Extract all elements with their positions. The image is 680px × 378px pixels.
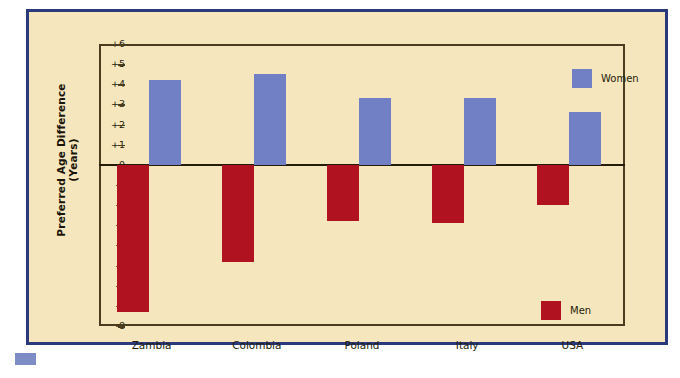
chart-panel: Preferred Age Difference (Years) +6+5+4+…: [26, 9, 668, 345]
y-tick-mark: [118, 326, 125, 328]
bar-women-colombia: [254, 74, 286, 165]
x-axis-label-zambia: Zambia: [132, 339, 172, 351]
x-axis-label-usa: USA: [562, 339, 584, 351]
bar-men-usa: [537, 165, 569, 205]
corner-marker: [15, 353, 36, 365]
figure: Preferred Age Difference (Years) +6+5+4+…: [0, 0, 680, 378]
legend-swatch-women: [572, 69, 592, 88]
bar-men-poland: [327, 165, 359, 221]
legend-item-women[interactable]: Women: [572, 69, 639, 88]
bar-women-zambia: [149, 80, 181, 165]
legend-item-men[interactable]: Men: [541, 301, 591, 320]
bar-men-italy: [432, 165, 464, 223]
bar-women-poland: [359, 98, 391, 164]
legend-label-women: Women: [601, 73, 639, 84]
y-axis-title: Preferred Age Difference (Years): [55, 60, 79, 260]
legend-label-men: Men: [570, 305, 591, 316]
bar-women-usa: [569, 112, 601, 164]
bar-women-italy: [464, 98, 496, 164]
x-axis-label-italy: Italy: [456, 339, 479, 351]
bar-men-zambia: [117, 165, 149, 312]
legend-swatch-men: [541, 301, 561, 320]
y-tick: -8: [79, 326, 125, 327]
x-axis-label-colombia: Colombia: [232, 339, 281, 351]
x-axis-label-poland: Poland: [344, 339, 379, 351]
bar-men-colombia: [222, 165, 254, 262]
